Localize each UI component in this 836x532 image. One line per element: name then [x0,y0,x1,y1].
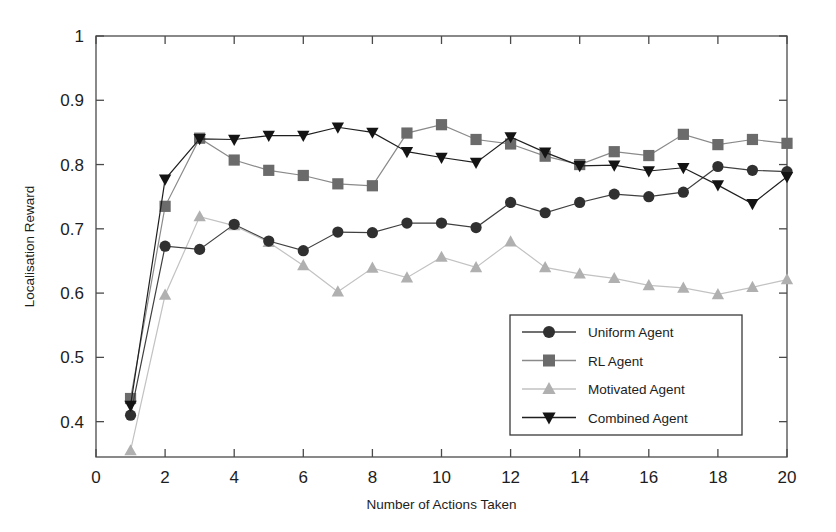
x-tick-label: 20 [778,468,797,487]
marker-circle [332,226,343,237]
marker-circle [194,244,205,255]
marker-triangle-up [366,262,378,273]
x-tick-label: 8 [368,468,377,487]
marker-triangle-down [366,128,378,139]
x-tick-label: 14 [570,468,589,487]
y-axis-title: Localisation Reward [22,186,37,308]
marker-circle [367,227,378,238]
x-tick-label: 2 [160,468,169,487]
marker-triangle-up [504,235,516,246]
marker-triangle-up [781,273,793,284]
chart-figure: 02468101214161820Number of Actions Taken… [0,0,836,532]
marker-triangle-up [435,251,447,262]
marker-square [609,146,620,157]
marker-circle [160,241,171,252]
marker-triangle-down [746,199,758,210]
marker-circle [436,217,447,228]
marker-triangle-up [297,259,309,270]
localisation-reward-line-chart: 02468101214161820Number of Actions Taken… [0,0,836,532]
marker-square [712,139,723,150]
y-tick-label: 1 [75,27,84,46]
marker-circle [540,207,551,218]
marker-square [436,119,447,130]
legend-label: Uniform Agent [588,325,674,340]
x-axis-title: Number of Actions Taken [367,497,517,512]
legend: Uniform AgentRL AgentMotivated AgentComb… [510,315,742,435]
x-tick-label: 0 [91,468,100,487]
marker-square [263,165,274,176]
marker-circle [678,187,689,198]
marker-circle [609,189,620,200]
marker-circle [574,197,585,208]
marker-triangle-up [539,261,551,272]
marker-square [229,154,240,165]
marker-square [298,170,309,181]
x-axis: 02468101214161820Number of Actions Taken [91,36,796,512]
marker-square [367,180,378,191]
marker-triangle-down [712,180,724,191]
y-tick-label: 0.4 [60,413,84,432]
marker-circle [229,219,240,230]
marker-triangle-down [159,175,171,186]
x-tick-label: 16 [639,468,658,487]
x-tick-label: 18 [708,468,727,487]
marker-triangle-down [297,131,309,142]
marker-triangle-up [124,444,136,455]
legend-label: Motivated Agent [588,382,685,397]
marker-square [332,178,343,189]
marker-circle [263,235,274,246]
marker-square [781,138,792,149]
marker-circle [470,222,481,233]
marker-square [747,134,758,145]
marker-triangle-down [781,172,793,183]
y-tick-label: 0.6 [60,284,84,303]
x-tick-label: 10 [432,468,451,487]
marker-triangle-down [228,135,240,146]
marker-circle [401,217,412,228]
y-tick-label: 0.7 [60,220,84,239]
marker-square [643,150,654,161]
y-tick-label: 0.9 [60,91,84,110]
marker-triangle-up [159,289,171,300]
marker-triangle-down [470,158,482,169]
marker-circle [505,197,516,208]
legend-label: Combined Agent [588,411,688,426]
marker-triangle-up [332,285,344,296]
marker-square [678,129,689,140]
marker-square [543,355,555,367]
marker-circle [543,326,555,338]
marker-circle [643,191,654,202]
y-tick-label: 0.5 [60,348,84,367]
marker-circle [712,161,723,172]
marker-circle [298,245,309,256]
x-tick-label: 12 [501,468,520,487]
x-tick-label: 4 [229,468,238,487]
y-tick-label: 0.8 [60,156,84,175]
marker-circle [747,165,758,176]
x-tick-label: 6 [299,468,308,487]
marker-triangle-down [643,166,655,177]
marker-square [470,134,481,145]
legend-label: RL Agent [588,354,643,369]
marker-triangle-up [193,210,205,221]
marker-square [401,127,412,138]
marker-triangle-down [124,401,136,412]
